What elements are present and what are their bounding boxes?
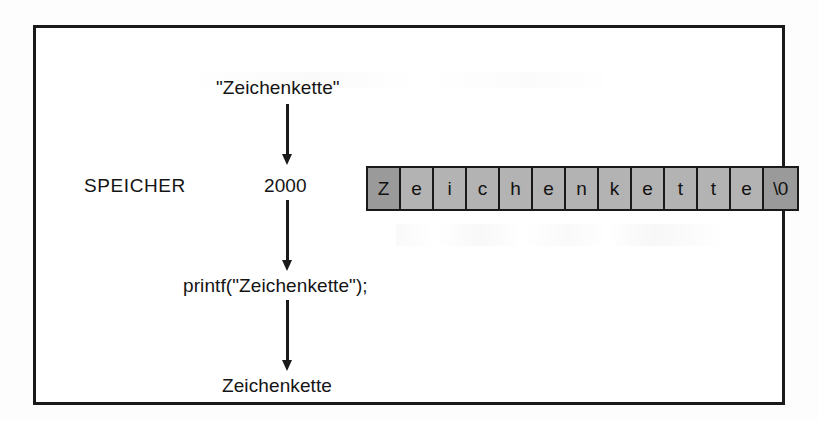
arrow-head-icon (282, 360, 292, 371)
arrow-head-icon (282, 260, 292, 271)
diagram-frame: "Zeichenkette" SPEICHER 2000 Zeichenkett… (33, 25, 785, 405)
memory-cell: Z (368, 168, 401, 209)
memory-address-label: 2000 (264, 176, 307, 195)
arrow-shaft (286, 200, 289, 261)
arrow-literal-to-address (281, 104, 293, 166)
memory-cell: h (500, 168, 533, 209)
arrow-head-icon (282, 154, 292, 165)
arrow-shaft (286, 104, 289, 155)
memory-cell: e (731, 168, 764, 209)
printf-call-label: printf("Zeichenkette"); (183, 276, 368, 295)
scan-bleed-artifact (396, 224, 726, 246)
memory-cell-grid: Zeichenkette\0 (366, 166, 799, 211)
memory-cell: e (632, 168, 665, 209)
memory-section-label: SPEICHER (84, 176, 186, 195)
arrow-printf-to-output (281, 300, 293, 372)
diagram-page: "Zeichenkette" SPEICHER 2000 Zeichenkett… (0, 0, 819, 421)
memory-cell: e (401, 168, 434, 209)
memory-cell: t (665, 168, 698, 209)
memory-cell: i (434, 168, 467, 209)
program-output-label: Zeichenkette (222, 376, 332, 395)
memory-cell: t (698, 168, 731, 209)
memory-cell: \0 (764, 168, 797, 209)
string-literal-label: "Zeichenkette" (216, 78, 340, 97)
memory-cell: k (599, 168, 632, 209)
memory-cell: c (467, 168, 500, 209)
arrow-address-to-printf (281, 200, 293, 272)
arrow-shaft (286, 300, 289, 361)
memory-cell: n (566, 168, 599, 209)
memory-cell: e (533, 168, 566, 209)
